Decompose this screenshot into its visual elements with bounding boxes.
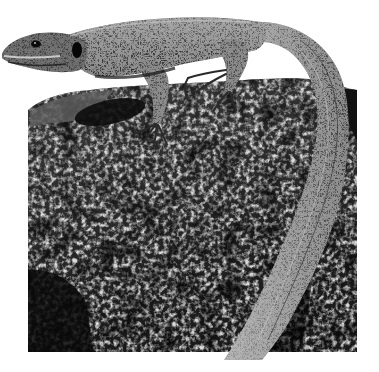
lizard-eye	[31, 41, 41, 48]
lizard-ear	[72, 42, 82, 58]
photo-scene: lizard	[0, 0, 379, 372]
lizard-on-rock-illustration	[0, 0, 379, 372]
